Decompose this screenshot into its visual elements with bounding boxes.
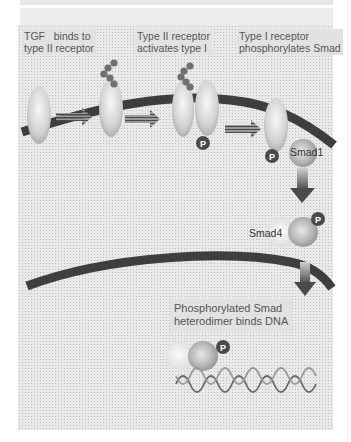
svg-text:P: P	[315, 215, 321, 225]
caption-step3: Type I receptor phosphorylates Smad	[237, 29, 343, 55]
phospho-badge-3: P	[311, 212, 325, 226]
arrow-right-3	[225, 120, 261, 138]
phospho-badge-1: P	[196, 136, 210, 150]
caption-step1: TGF binds to type II receptor	[22, 29, 96, 55]
caption-step1-line2: type II receptor	[24, 42, 94, 54]
caption-step4: Phosphorylated Smad heterodimer binds DN…	[170, 299, 292, 331]
arrow-down-1	[290, 168, 315, 203]
nuclear-membrane	[27, 256, 332, 288]
phospho-badge-2: P	[265, 149, 279, 163]
svg-text:P: P	[269, 152, 275, 162]
receptor-type1	[264, 98, 288, 152]
caption-step2-line2: activates type I	[137, 42, 210, 54]
dna-helix	[176, 368, 316, 392]
caption-step4-line2: heterodimer binds DNA	[174, 315, 288, 328]
receptor-type1-active	[195, 80, 219, 136]
smad-phospho-dna-ball	[188, 341, 218, 371]
caption-step1-line1: TGF binds to	[24, 30, 94, 42]
smad1-label: Smad1	[290, 146, 323, 158]
receptor-type2-unbound	[27, 86, 51, 144]
receptor-type2-bound	[99, 79, 123, 137]
pathway-diagram: P P P P	[0, 0, 351, 442]
caption-step3-line2: phosphorylates Smad	[239, 42, 341, 54]
caption-step4-line1: Phosphorylated Smad	[174, 302, 288, 315]
svg-text:P: P	[220, 343, 226, 353]
arrow-right-2	[125, 110, 160, 128]
smad4-label: Smad4	[249, 227, 282, 239]
phospho-badge-4: P	[216, 340, 230, 354]
svg-text:P: P	[200, 139, 206, 149]
caption-step3-line1: Type I receptor	[239, 30, 341, 42]
caption-step2-line1: Type II receptor	[137, 30, 210, 42]
caption-step2: Type II receptor activates type I	[135, 29, 212, 55]
